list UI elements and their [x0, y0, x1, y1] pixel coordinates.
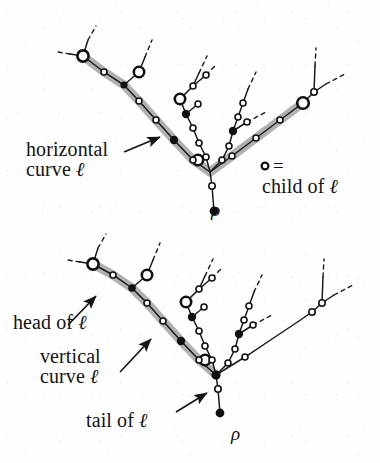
legend-ell: ℓ	[330, 175, 338, 197]
horizontal-curve-arrow	[124, 137, 160, 152]
label-vertical-ell: ℓ	[90, 365, 98, 387]
label-horizontal-line2: curve	[26, 158, 71, 180]
top-root-label: ρ	[211, 200, 220, 219]
vertical-curve-arrow	[120, 339, 151, 372]
legend-child-text: child of	[262, 175, 324, 197]
bottom-root-label: ρ	[231, 424, 240, 443]
bottom-panel	[68, 234, 353, 417]
legend-equals-sign: =	[273, 155, 284, 176]
label-tail-ell: ℓ	[139, 409, 147, 431]
label-vertical-line1: vertical	[40, 345, 101, 367]
label-horizontal-line1: horizontal	[26, 138, 108, 160]
label-head-ell: ℓ	[78, 311, 86, 333]
label-horizontal-ell: ℓ	[76, 158, 84, 180]
figure-canvas: =	[0, 0, 380, 463]
legend-child-marker-icon	[262, 163, 269, 170]
label-tail-of-l: tail of ℓ	[86, 410, 147, 430]
top-highlight-horizontal-curve	[83, 56, 303, 172]
label-head-of-l: head of ℓ	[13, 312, 87, 332]
label-head-text: head of	[13, 311, 73, 333]
label-vertical-line2: curve	[40, 365, 85, 387]
label-vertical-curve: verticalcurve ℓ	[40, 346, 101, 387]
label-horizontal-curve: horizontalcurve ℓ	[26, 139, 108, 180]
legend-child-of-l: child of ℓ	[262, 176, 338, 196]
label-tail-text: tail of	[86, 409, 134, 431]
tail-of-l-arrow	[176, 393, 207, 412]
